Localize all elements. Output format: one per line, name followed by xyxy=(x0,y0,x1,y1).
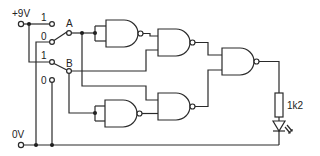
resistor: 1k2 xyxy=(275,93,304,121)
switch-a[interactable]: 1 0 A xyxy=(41,12,73,44)
switch-a-pos-low-label: 0 xyxy=(41,31,47,42)
supply-positive-label: +9V xyxy=(12,8,30,19)
light-emission-icon xyxy=(285,125,292,133)
switch-b-pos-high-label: 1 xyxy=(41,50,47,61)
resistor-label: 1k2 xyxy=(287,100,304,111)
switch-a-pos-high-label: 1 xyxy=(41,12,47,23)
supply-ground-label: 0V xyxy=(12,129,25,140)
switch-a-label: A xyxy=(66,18,73,29)
nand-gate-2 xyxy=(158,29,222,56)
switch-b-pos-low-label: 0 xyxy=(41,75,47,86)
nand-gate-4 xyxy=(105,100,158,127)
nand-gate-1 xyxy=(106,20,158,47)
switch-b-label: B xyxy=(66,58,73,69)
nand-gate-5 xyxy=(158,70,222,120)
circuit-diagram: +9V 0V 1 0 A 1 0 B xyxy=(0,0,320,156)
led xyxy=(273,121,292,145)
switch-b[interactable]: 1 0 B xyxy=(41,50,73,86)
nand-gate-3 xyxy=(222,48,279,93)
